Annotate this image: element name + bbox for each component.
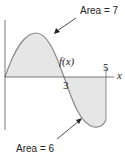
function-label: f(x) [59, 55, 75, 68]
area-diagram: Area = 7 Area = 6 f(x) 3 5 x [0, 0, 125, 156]
arrow-top [57, 18, 76, 31]
x-axis-label: x [116, 69, 122, 81]
tick-label-3: 3 [63, 79, 69, 91]
top-area-label: Area = 7 [80, 5, 119, 16]
bottom-area-label: Area = 6 [16, 143, 55, 154]
arrow-top-head-icon [54, 28, 60, 34]
arrow-bottom [57, 121, 79, 139]
tick-label-5: 5 [103, 61, 109, 73]
negative-area-region [64, 77, 106, 127]
